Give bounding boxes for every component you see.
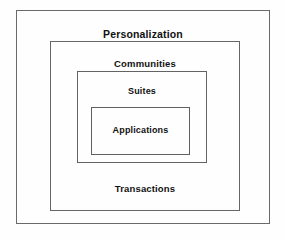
layer-box-suites: Suites Applications	[77, 71, 207, 163]
layer-label-communities: Communities	[51, 59, 239, 69]
layer-box-personalization: Personalization Communities Suites Appli…	[16, 10, 270, 224]
layer-box-communities: Communities Suites Applications Transact…	[50, 41, 240, 211]
layer-box-applications: Applications	[91, 107, 190, 155]
layer-label-personalization: Personalization	[17, 29, 269, 40]
layer-label-transactions: Transactions	[51, 184, 239, 194]
nested-layers-diagram: Personalization Communities Suites Appli…	[0, 0, 284, 241]
layer-label-suites: Suites	[78, 87, 206, 96]
layer-label-applications: Applications	[92, 126, 189, 135]
